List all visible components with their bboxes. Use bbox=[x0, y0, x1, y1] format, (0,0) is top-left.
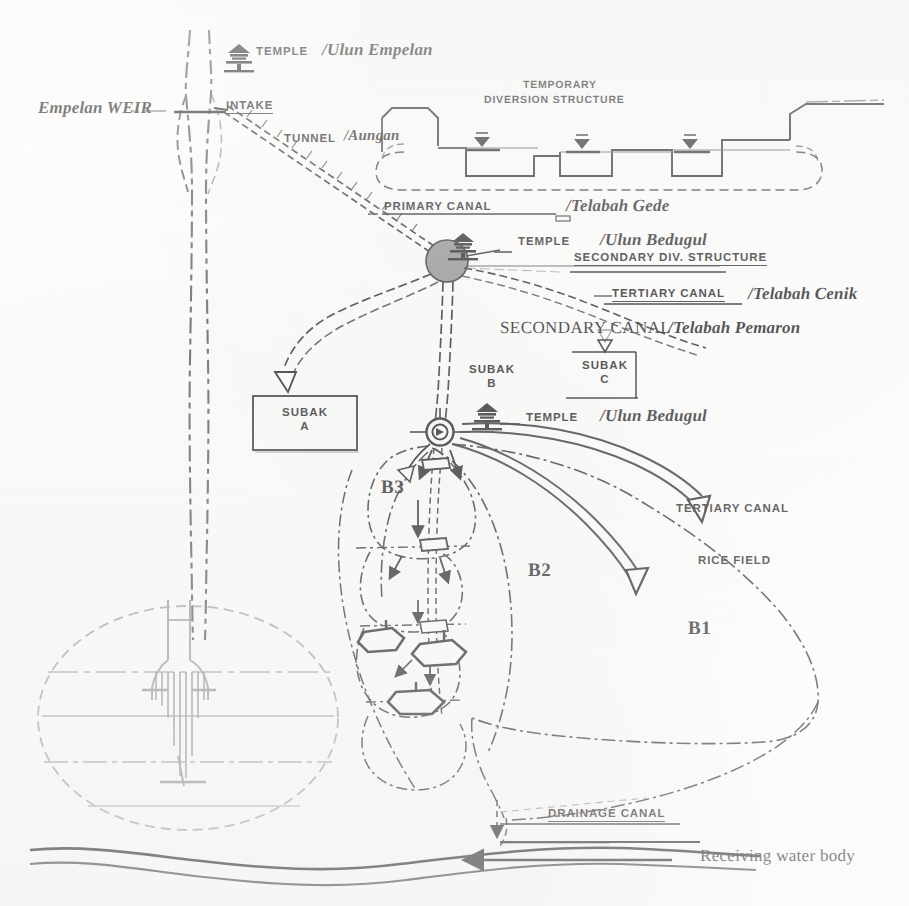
label-drainage-canal: DRAINAGE CANAL bbox=[548, 808, 665, 822]
label-subak-c: SUBAK C bbox=[575, 358, 635, 387]
rice-field-block-b1 bbox=[452, 444, 818, 820]
pond-3 bbox=[388, 690, 444, 714]
label-secondary-canal-local: /Telabah Pemaron bbox=[668, 318, 800, 338]
label-temple-lower-local: /Ulun Bedugul bbox=[600, 406, 707, 426]
label-rice-field: RICE FIELD bbox=[698, 555, 771, 567]
temple-icon-upper bbox=[224, 44, 254, 72]
label-tunnel-local: /Aungan bbox=[344, 128, 400, 145]
label-block-b1: B1 bbox=[688, 618, 711, 640]
label-receiving-water-body: Receiving water body bbox=[700, 846, 855, 866]
label-tertiary-canal-right: TERTIARY CANAL bbox=[676, 503, 789, 515]
secondary-canal-to-subak-a bbox=[275, 274, 438, 392]
figure-sheet: TEMPLE /Ulun Empelan Empelan WEIR INTAKE… bbox=[0, 0, 909, 906]
tertiary-distribution-arrows bbox=[398, 423, 710, 594]
label-tunnel: TUNNEL bbox=[284, 133, 336, 145]
label-block-b3: B3 bbox=[381, 477, 404, 499]
subak-a-line1: SUBAK bbox=[282, 406, 328, 418]
subak-b-line2: B bbox=[487, 377, 496, 389]
temple-icon-lower bbox=[472, 403, 502, 430]
tertiary-division-node bbox=[410, 408, 470, 446]
drainage-path bbox=[497, 798, 700, 846]
gate-icon-3 bbox=[674, 135, 710, 152]
irrigation-schematic-drawing bbox=[0, 0, 909, 906]
rice-field-block-b3 bbox=[339, 446, 476, 790]
subak-a-line2: A bbox=[300, 420, 309, 432]
label-temporary-diversion-line2: DIVERSION STRUCTURE bbox=[484, 94, 625, 106]
label-temporary-diversion-line1: TEMPORARY bbox=[523, 79, 597, 91]
secondary-diversion-node bbox=[426, 240, 468, 282]
label-temple-mid-local: /Ulun Bedugul bbox=[600, 230, 707, 250]
pond-1 bbox=[358, 628, 404, 652]
temporary-diversion-structure bbox=[376, 100, 884, 190]
label-block-b2: B2 bbox=[528, 560, 551, 582]
label-temple-lower: TEMPLE bbox=[526, 412, 578, 424]
label-primary-canal-local: /Telabah Gede bbox=[566, 196, 670, 216]
gate-icon-2 bbox=[566, 135, 600, 152]
label-tertiary-canal-upper-local: /Telabah Cenik bbox=[748, 284, 857, 304]
river-channel bbox=[177, 30, 221, 640]
label-subak-b: SUBAK B bbox=[462, 362, 522, 391]
label-secondary-canal: SECONDARY CANAL bbox=[500, 318, 671, 338]
subak-c-line2: C bbox=[600, 373, 609, 385]
tunnel-aungan bbox=[224, 106, 434, 252]
label-temple-upper-local: /Ulun Empelan bbox=[322, 40, 433, 60]
label-primary-canal: PRIMARY CANAL bbox=[384, 201, 492, 213]
tertiary-canal-telabah-cenik bbox=[462, 268, 706, 356]
label-temple-mid: TEMPLE bbox=[518, 236, 570, 248]
pond-2 bbox=[412, 640, 466, 666]
label-temple-upper: TEMPLE bbox=[256, 46, 308, 58]
label-empelan-weir: Empelan WEIR bbox=[38, 98, 152, 118]
pond-shapes bbox=[358, 628, 466, 714]
label-tertiary-canal-upper: TERTIARY CANAL bbox=[612, 288, 725, 302]
label-subak-a: SUBAK A bbox=[253, 405, 357, 434]
subak-c-line1: SUBAK bbox=[582, 359, 628, 371]
label-secondary-div-structure: SECONDARY DIV. STRUCTURE bbox=[574, 252, 767, 266]
secondary-canal-telabah-pemaron bbox=[435, 282, 453, 424]
receiving-water-body-line bbox=[30, 848, 760, 885]
gate-icon-1 bbox=[466, 133, 500, 150]
weir-detail-inset bbox=[38, 600, 338, 830]
field-gate-symbols bbox=[420, 458, 450, 633]
label-intake: INTAKE bbox=[226, 100, 273, 114]
subak-b-line1: SUBAK bbox=[469, 363, 515, 375]
